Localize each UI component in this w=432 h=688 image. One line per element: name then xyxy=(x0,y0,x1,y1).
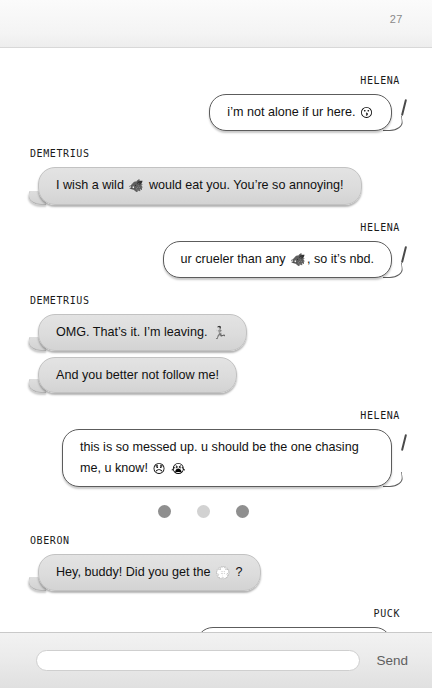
message-text: , so it’s nbd. xyxy=(307,252,374,266)
message-bubble[interactable]: i’m not alone if ur here. 😗 xyxy=(209,94,392,131)
message-row: this is so messed up. u should be the on… xyxy=(26,429,406,487)
message-bubble[interactable]: this is so messed up. u should be the on… xyxy=(62,429,392,487)
message-row: i’m not alone if ur here. 😗 xyxy=(26,94,406,131)
message-text: this is so messed up. u should be the on… xyxy=(80,440,362,474)
speaker-name: Oberon xyxy=(30,531,406,547)
message-text: Hey, buddy! Did you get the xyxy=(56,565,214,579)
message-row: ur crueler than any 🐗, so it’s nbd. xyxy=(26,241,406,278)
message-bubble[interactable]: OMG. That’s it. I’m leaving. 🏃 xyxy=(38,314,247,351)
speaker-name: Helena xyxy=(26,406,400,422)
message-text: ur crueler than any xyxy=(181,252,290,266)
message-bubble[interactable]: ur crueler than any 🐗, so it’s nbd. xyxy=(163,241,393,278)
message-composer: Send xyxy=(0,632,432,688)
typing-dot xyxy=(197,505,210,518)
message-row: OMG. That’s it. I’m leaving. 🏃 xyxy=(26,314,406,351)
message-row: Hey, buddy! Did you get the 💮 ? xyxy=(26,554,406,591)
bubble-tail-stroke xyxy=(401,246,407,263)
message-row: And you better not follow me! xyxy=(26,357,406,393)
page-number: 27 xyxy=(390,13,403,25)
kissing-face-emoji: 😗 xyxy=(359,105,374,120)
message-text: i’m not alone if ur here. xyxy=(227,105,359,119)
message-text: would eat you. You’re so annoying! xyxy=(145,178,343,192)
message-row: I wish a wild 🐗 would eat you. You’re so… xyxy=(26,167,406,204)
speaker-name: Demetrius xyxy=(30,291,406,307)
white-flower-emoji: 💮 xyxy=(214,565,232,580)
page-header: 27 xyxy=(0,0,432,48)
message-bubble[interactable]: Hey, buddy! Did you get the 💮 ? xyxy=(38,554,261,591)
message-bubble[interactable]: I wish a wild 🐗 would eat you. You’re so… xyxy=(38,167,362,204)
message-text: OMG. That’s it. I’m leaving. xyxy=(56,325,211,339)
message-text: I wish a wild xyxy=(56,178,127,192)
message-bubble[interactable]: And you better not follow me! xyxy=(38,357,237,393)
send-button[interactable]: Send xyxy=(360,653,418,668)
typing-dot xyxy=(236,505,249,518)
bubble-tail-stroke xyxy=(401,99,407,116)
conversation-thread: Helenai’m not alone if ur here. 😗Demetri… xyxy=(0,48,432,632)
bubble-tail-stroke xyxy=(401,434,407,451)
loudly-crying-face-emoji: 😭 xyxy=(170,461,187,476)
typing-indicator xyxy=(26,505,406,518)
message-text: And you better not follow me! xyxy=(56,368,219,382)
speaker-name: Helena xyxy=(26,218,400,234)
message-text: ? xyxy=(232,565,243,579)
boar-emoji: 🐗 xyxy=(127,178,145,193)
message-input[interactable] xyxy=(36,650,360,671)
speaker-name: Demetrius xyxy=(30,144,406,160)
disappointed-face-emoji: 😞 xyxy=(151,461,166,476)
speaker-name: Puck xyxy=(26,604,400,620)
speaker-name: Helena xyxy=(26,71,400,87)
typing-dot xyxy=(158,505,171,518)
boar-emoji: 🐗 xyxy=(289,252,307,267)
running-person-emoji: 🏃 xyxy=(211,325,229,340)
